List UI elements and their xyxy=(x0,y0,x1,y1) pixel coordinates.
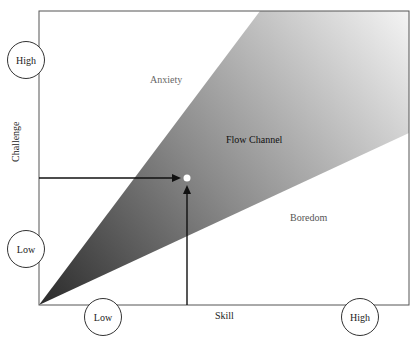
x-high-marker: High xyxy=(341,298,379,336)
region-boredom: Boredom xyxy=(290,212,327,223)
current-state-point xyxy=(184,175,191,182)
x-low-label: Low xyxy=(94,312,112,323)
x-high-label: High xyxy=(350,312,370,323)
y-low-marker: Low xyxy=(7,230,45,268)
diagram-canvas xyxy=(0,0,418,344)
flow-channel-wedge xyxy=(39,11,409,305)
region-anxiety: Anxiety xyxy=(150,74,182,85)
y-high-marker: High xyxy=(7,41,45,79)
y-high-label: High xyxy=(16,55,36,66)
y-axis-label: Challenge xyxy=(10,121,21,162)
region-flow-channel: Flow Channel xyxy=(226,134,282,145)
x-low-marker: Low xyxy=(84,298,122,336)
y-low-label: Low xyxy=(17,244,35,255)
x-axis-label: Skill xyxy=(215,310,234,321)
